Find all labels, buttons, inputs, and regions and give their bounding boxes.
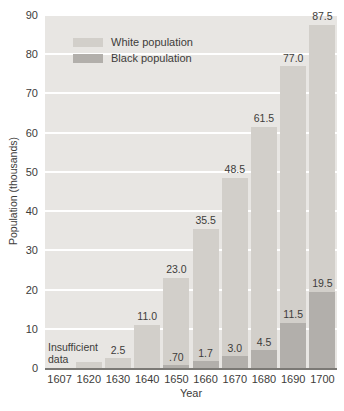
legend-row-black: Black population: [73, 52, 193, 65]
y-tick-20: 20: [0, 283, 38, 297]
legend: White population Black population: [73, 36, 193, 65]
y-axis-title: Population (thousands): [7, 137, 19, 245]
y-tick-60: 60: [0, 126, 38, 140]
bar-black-1690: [280, 323, 306, 368]
bar-black-1660: [193, 361, 219, 368]
y-tick-10: 10: [0, 322, 38, 336]
bar-value-white-1700: 87.5: [300, 11, 344, 22]
bar-value-black-1700: 19.5: [300, 278, 344, 289]
y-tick-70: 70: [0, 86, 38, 100]
bar-black-1670: [222, 356, 248, 368]
x-axis-title: Year: [45, 387, 337, 399]
plot-area: 2.511.023.035.548.561.577.087.5.701.73.0…: [45, 15, 337, 368]
legend-label-white: White population: [111, 36, 193, 49]
white-population-swatch: [73, 38, 103, 47]
legend-label-black: Black population: [111, 52, 192, 65]
y-tick-0: 0: [0, 361, 38, 375]
y-tick-90: 90: [0, 8, 38, 22]
x-axis-line: [45, 368, 337, 370]
bar-white-1680: [251, 127, 277, 368]
y-tick-40: 40: [0, 204, 38, 218]
bar-black-1680: [251, 350, 277, 368]
black-population-swatch: [73, 54, 103, 63]
y-tick-80: 80: [0, 47, 38, 61]
x-tick-1700: 1700: [304, 373, 341, 386]
insufficient-data-annotation: Insufficient data: [48, 341, 112, 365]
bar-black-1700: [309, 292, 335, 368]
y-tick-30: 30: [0, 243, 38, 257]
legend-row-white: White population: [73, 36, 193, 49]
chart: Population (thousands) 01020304050607080…: [0, 0, 344, 411]
gridline-90: [45, 14, 337, 16]
y-tick-50: 50: [0, 165, 38, 179]
